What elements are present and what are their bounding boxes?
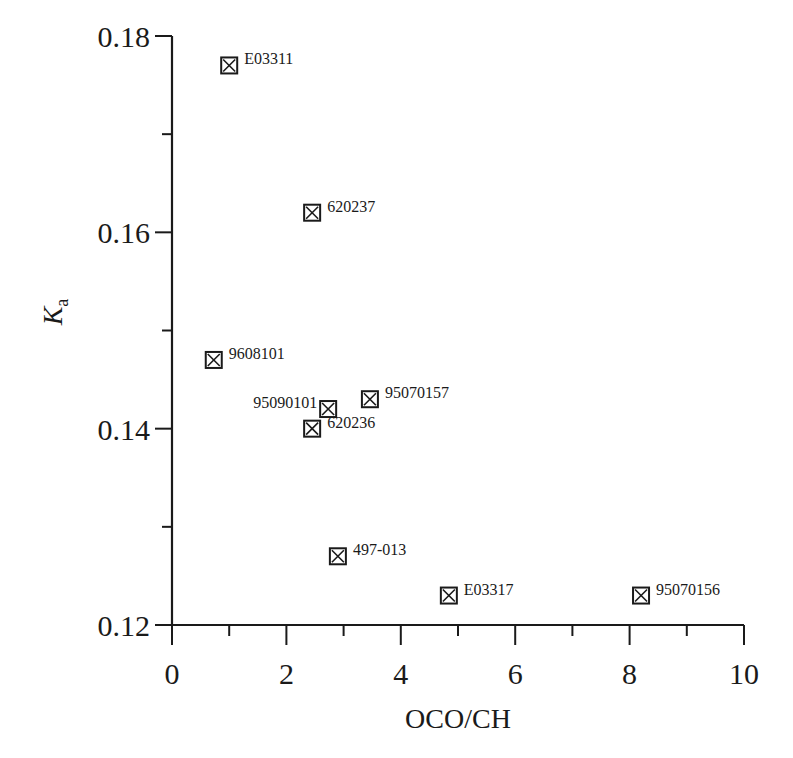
data-point: 95070157 [362,384,449,407]
scatter-chart: 0.120.140.160.180246810 E033116202379608… [0,0,793,758]
point-label: 95090101 [253,394,317,411]
point-label: 620237 [327,198,375,215]
data-point: 497-013 [330,541,406,564]
point-label: E03311 [244,50,293,67]
y-axis-title: Ka [37,299,72,327]
y-tick-label: 0.14 [98,413,151,446]
x-axis-title: OCO/CH [405,703,511,734]
data-point: 620237 [304,198,375,221]
data-point: E03317 [441,581,514,604]
point-label: 9608101 [229,345,285,362]
data-point: E03311 [221,50,293,73]
x-tick-label: 0 [165,657,180,690]
point-label: 497-013 [353,541,406,558]
y-tick-label: 0.12 [98,609,151,642]
x-tick-label: 4 [393,657,408,690]
point-label: E03317 [464,581,514,598]
data-point: 9608101 [206,345,285,368]
y-axis-title-subscript: a [52,299,72,307]
svg-text:Ka: Ka [37,299,72,327]
point-label: 95070157 [385,384,449,401]
x-tick-label: 8 [622,657,637,690]
point-label: 95070156 [656,581,720,598]
data-point: 620236 [304,414,375,437]
x-tick-label: 6 [508,657,523,690]
x-tick-label: 2 [279,657,294,690]
x-tick-label: 10 [729,657,759,690]
data-point: 95090101 [253,394,336,417]
y-tick-label: 0.16 [98,216,151,249]
data-points: E033116202379608101950701579509010162023… [206,50,720,603]
y-tick-label: 0.18 [98,20,151,53]
y-axis-title-main: K [37,305,68,326]
data-point: 95070156 [633,581,720,604]
point-label: 620236 [327,414,375,431]
